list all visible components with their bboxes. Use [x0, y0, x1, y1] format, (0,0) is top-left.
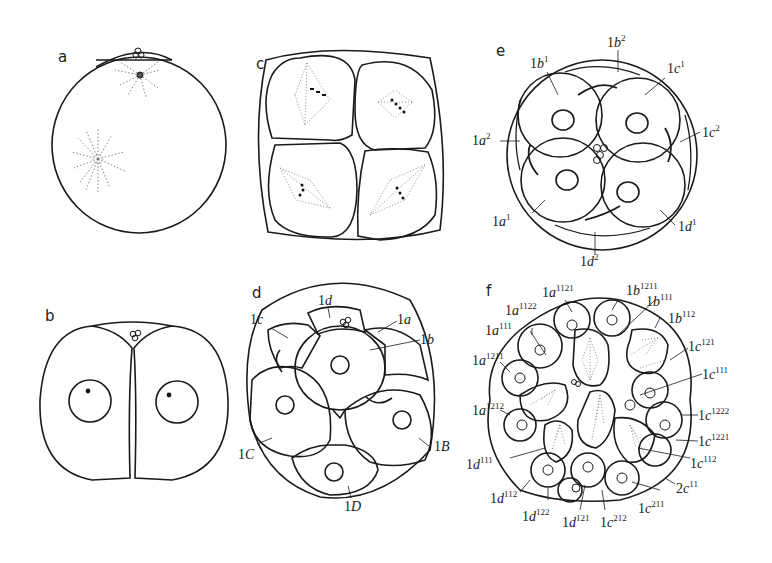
label-1d: 1d: [318, 294, 332, 308]
label-1b: 1b: [420, 333, 434, 347]
label-1b112: 1b112: [668, 310, 695, 326]
panel-f-later-cleavage: [488, 298, 702, 510]
label-1c111: 1c111: [702, 366, 728, 382]
figure-caption-cropped: [110, 552, 670, 563]
panel-letter-f: f: [486, 282, 491, 300]
label-1b1: 1b1: [530, 55, 549, 71]
label-1c: 1c: [250, 313, 263, 327]
label-1d112: 1d112: [490, 490, 517, 506]
label-1d121: 1d121: [562, 514, 590, 530]
panel-letter-d: d: [252, 284, 262, 302]
label-1a1211: 1a1211: [472, 352, 504, 368]
leader-lines: [257, 308, 430, 498]
panel-b-two-cell: [40, 322, 228, 480]
aster-lower: [72, 128, 125, 192]
panel-letter-e: e: [496, 42, 505, 60]
label-1d122: 1d122: [522, 508, 550, 524]
label-1c1: 1c1: [667, 60, 685, 76]
label-1c1222: 1c1222: [698, 407, 729, 423]
aster-upper: [115, 62, 160, 97]
label-1a1: 1a1: [492, 213, 511, 229]
label-1a: 1a: [397, 313, 411, 327]
label-1d2: 1d2: [580, 253, 599, 269]
label-1c1221: 1c1221: [698, 433, 729, 449]
panel-letter-b: b: [45, 307, 55, 325]
label-1a1121: 1a1121: [542, 284, 574, 300]
panel-a-egg: [52, 48, 226, 233]
label-1d111: 1d111: [466, 456, 493, 472]
label-1c212: 1c212: [600, 514, 627, 530]
nuclei: [515, 315, 670, 492]
panel-e-sixteen-cell: [500, 50, 700, 255]
label-1a2: 1a2: [472, 132, 491, 148]
label-1B: 1B: [434, 440, 450, 454]
label-1C: 1C: [238, 448, 254, 462]
label-2c11: 2c11: [676, 480, 698, 496]
panel-c-four-cell: [258, 50, 443, 240]
panel-letter-c: c: [256, 55, 264, 73]
label-1c2: 1c2: [702, 124, 720, 140]
label-1b2: 1b2: [607, 34, 626, 50]
label-1a111: 1a111: [485, 322, 512, 338]
panel-letter-a: a: [58, 48, 67, 66]
label-1c121: 1c121: [688, 338, 715, 354]
label-1c112: 1c112: [690, 455, 716, 471]
label-1a1212: 1a1212: [472, 402, 504, 418]
label-1D: 1D: [344, 500, 361, 514]
label-1b111: 1b111: [646, 293, 673, 309]
label-1c211: 1c211: [638, 500, 664, 516]
label-1a1122: 1a1122: [505, 302, 537, 318]
label-1d1: 1d1: [678, 218, 697, 234]
